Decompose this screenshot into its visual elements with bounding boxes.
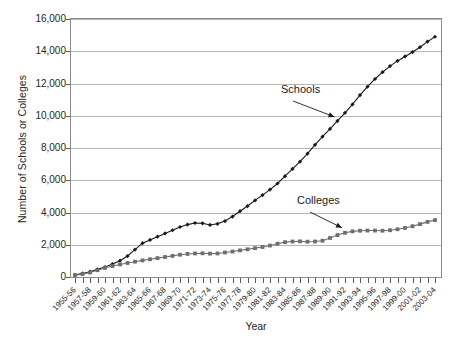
x-axis-title: Year [70, 320, 442, 332]
chart-container: Number of Schools or Colleges 02,0004,00… [0, 0, 454, 340]
x-axis-tick-labels: 1955-561957-581959-601961-621963-641965-… [0, 0, 454, 340]
